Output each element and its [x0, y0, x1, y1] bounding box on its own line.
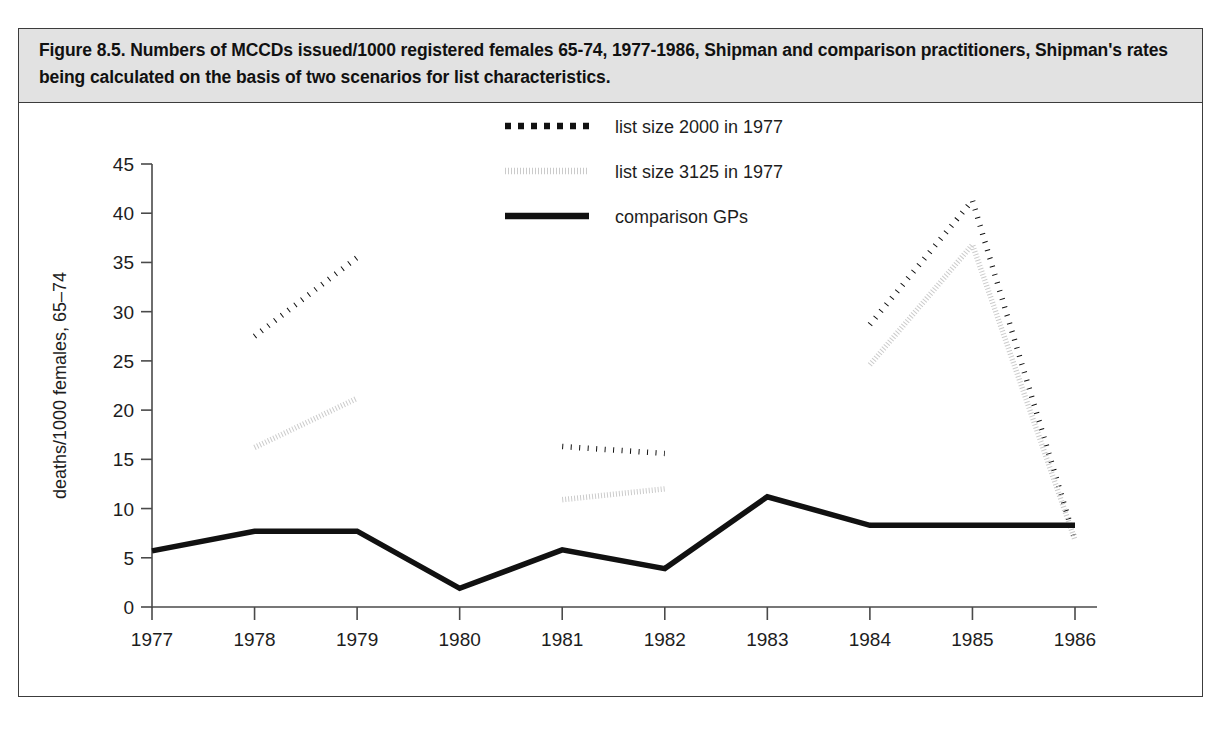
line-chart: 051015202530354045 197719781979198019811…: [19, 103, 1201, 696]
x-tick-label: 1981: [541, 629, 583, 650]
y-tick-label: 10: [113, 499, 134, 520]
x-tick-label: 1979: [336, 629, 378, 650]
series-line: [562, 489, 665, 500]
series-line: [255, 398, 358, 447]
x-tick-label: 1977: [131, 629, 173, 650]
y-tick-label: 40: [113, 203, 134, 224]
x-tick-label: 1983: [746, 629, 788, 650]
series-line: [870, 200, 1075, 540]
x-tick-label: 1985: [951, 629, 993, 650]
y-tick-label: 30: [113, 302, 134, 323]
series-line: [562, 447, 665, 454]
y-axis: 051015202530354045: [113, 154, 152, 618]
series-line: [152, 497, 1075, 589]
legend-label: comparison GPs: [615, 207, 748, 227]
legend-label: list size 3125 in 1977: [615, 162, 783, 182]
y-tick-label: 45: [113, 154, 134, 175]
figure-frame: Figure 8.5. Numbers of MCCDs issued/1000…: [18, 28, 1203, 697]
x-axis: 1977197819791980198119821983198419851986: [131, 607, 1097, 650]
y-tick-label: 15: [113, 449, 134, 470]
y-tick-label: 25: [113, 351, 134, 372]
x-tick-label: 1982: [644, 629, 686, 650]
figure-caption-band: Figure 8.5. Numbers of MCCDs issued/1000…: [19, 29, 1202, 103]
figure-caption: Figure 8.5. Numbers of MCCDs issued/1000…: [39, 37, 1184, 91]
y-axis-title: deaths/1000 females, 65–74: [50, 272, 70, 499]
figure-page: Figure 8.5. Numbers of MCCDs issued/1000…: [0, 0, 1227, 729]
y-tick-label: 35: [113, 252, 134, 273]
x-axis-title: year: [606, 691, 641, 696]
y-tick-label: 20: [113, 400, 134, 421]
legend-label: list size 2000 in 1977: [615, 117, 783, 137]
chart-legend: list size 2000 in 1977list size 3125 in …: [505, 117, 783, 227]
chart-series-group: [152, 200, 1075, 588]
x-tick-label: 1986: [1054, 629, 1096, 650]
series-line: [870, 245, 1075, 540]
chart-plot-area: 051015202530354045 197719781979198019811…: [19, 103, 1202, 696]
x-tick-label: 1984: [849, 629, 892, 650]
y-tick-label: 0: [123, 597, 134, 618]
x-tick-label: 1978: [233, 629, 275, 650]
y-tick-label: 5: [123, 548, 134, 569]
series-line: [255, 258, 358, 337]
x-tick-label: 1980: [439, 629, 481, 650]
